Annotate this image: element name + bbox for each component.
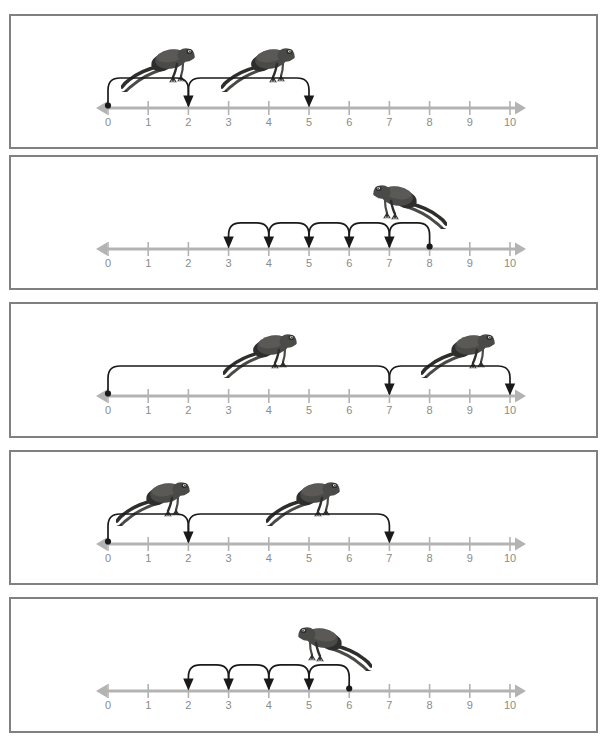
- axis-left-arrowhead: [96, 538, 107, 551]
- axis-tick-label: 10: [498, 552, 522, 565]
- axis-tick-label: 5: [297, 404, 321, 417]
- axis-tick-label: 6: [337, 116, 361, 129]
- numberline-panel: 012345678910: [9, 450, 598, 585]
- jump-start-dot: [346, 685, 352, 691]
- jump-arrowhead: [505, 384, 515, 396]
- jump-arc: [188, 665, 228, 689]
- axis-tick-label: 7: [377, 257, 401, 270]
- jump-start-dot: [105, 102, 111, 108]
- axis-tick-label: 8: [418, 257, 442, 270]
- axis-tick-label: 9: [458, 404, 482, 417]
- axis-tick-label: 8: [418, 699, 442, 712]
- axis-tick-label: 4: [257, 116, 281, 129]
- jump-arc: [188, 78, 309, 106]
- jump-arc: [309, 665, 349, 689]
- axis-left-arrowhead: [96, 685, 107, 698]
- jump-arc: [229, 223, 269, 247]
- axis-tick-label: 1: [136, 699, 160, 712]
- axis-tick-label: 0: [96, 257, 120, 270]
- axis-tick-label: 6: [337, 699, 361, 712]
- jump-arrowhead: [183, 679, 193, 691]
- axis-tick-label: 9: [458, 257, 482, 270]
- jump-arc: [108, 366, 389, 394]
- numberline-panel: 012345678910: [9, 597, 598, 733]
- axis-tick-label: 10: [498, 404, 522, 417]
- axis-tick-label: 7: [377, 552, 401, 565]
- axis-right-arrowhead: [515, 102, 526, 115]
- axis-right-arrowhead: [515, 538, 526, 551]
- axis-tick-label: 7: [377, 404, 401, 417]
- axis-tick-label: 5: [297, 116, 321, 129]
- axis-left-arrowhead: [96, 390, 107, 403]
- axis-tick-label: 2: [176, 552, 200, 565]
- axis-tick-label: 9: [458, 116, 482, 129]
- axis-tick-label: 10: [498, 116, 522, 129]
- numberline-panel: 012345678910: [9, 14, 598, 149]
- axis-tick-label: 0: [96, 699, 120, 712]
- jump-arrowhead: [304, 96, 314, 108]
- jump-start-dot: [427, 243, 433, 249]
- axis-tick-label: 3: [217, 699, 241, 712]
- axis-left-arrowhead: [96, 243, 107, 256]
- axis-tick-label: 4: [257, 404, 281, 417]
- axis-tick-label: 10: [498, 257, 522, 270]
- axis-tick-label: 9: [458, 552, 482, 565]
- axis-tick-label: 2: [176, 699, 200, 712]
- jump-arc: [229, 665, 269, 689]
- axis-tick-label: 3: [217, 552, 241, 565]
- axis-tick-label: 5: [297, 699, 321, 712]
- numberline-panel: 012345678910: [9, 302, 598, 438]
- axis-tick-label: 7: [377, 699, 401, 712]
- jump-arrowhead: [223, 237, 233, 249]
- axis-tick-label: 0: [96, 552, 120, 565]
- axis-tick-label: 5: [297, 552, 321, 565]
- worksheet-sheet: 0123456789100123456789100123456789100123…: [0, 0, 611, 746]
- axis-tick-label: 6: [337, 552, 361, 565]
- axis-tick-label: 1: [136, 257, 160, 270]
- axis-tick-label: 1: [136, 116, 160, 129]
- numberline-panel: 012345678910: [9, 155, 598, 290]
- jump-start-dot: [105, 538, 111, 544]
- jump-arc: [309, 223, 349, 247]
- jump-arc: [349, 223, 389, 247]
- jump-arc: [389, 366, 510, 394]
- jump-arc: [269, 223, 309, 247]
- axis-tick-label: 8: [418, 116, 442, 129]
- axis-tick-label: 6: [337, 257, 361, 270]
- axis-tick-label: 8: [418, 404, 442, 417]
- axis-tick-label: 4: [257, 552, 281, 565]
- axis-tick-label: 6: [337, 404, 361, 417]
- axis-tick-label: 9: [458, 699, 482, 712]
- axis-right-arrowhead: [515, 685, 526, 698]
- axis-right-arrowhead: [515, 243, 526, 256]
- axis-tick-label: 1: [136, 404, 160, 417]
- jump-arc: [389, 223, 429, 247]
- axis-tick-label: 2: [176, 404, 200, 417]
- axis-tick-label: 7: [377, 116, 401, 129]
- axis-tick-label: 1: [136, 552, 160, 565]
- axis-tick-label: 4: [257, 257, 281, 270]
- axis-tick-label: 4: [257, 699, 281, 712]
- axis-tick-label: 0: [96, 116, 120, 129]
- axis-right-arrowhead: [515, 390, 526, 403]
- axis-tick-label: 3: [217, 116, 241, 129]
- jump-start-dot: [105, 390, 111, 396]
- axis-tick-label: 2: [176, 257, 200, 270]
- axis-tick-label: 8: [418, 552, 442, 565]
- jump-arc: [269, 665, 309, 689]
- axis-left-arrowhead: [96, 102, 107, 115]
- jump-arrowhead: [384, 532, 394, 544]
- axis-tick-label: 0: [96, 404, 120, 417]
- axis-tick-label: 5: [297, 257, 321, 270]
- axis-tick-label: 3: [217, 404, 241, 417]
- axis-tick-label: 10: [498, 699, 522, 712]
- axis-tick-label: 2: [176, 116, 200, 129]
- axis-tick-label: 3: [217, 257, 241, 270]
- jump-arc: [188, 514, 389, 542]
